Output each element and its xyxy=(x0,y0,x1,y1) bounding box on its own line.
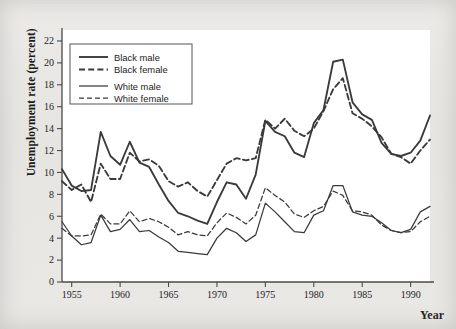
x-tick-label: 1955 xyxy=(62,289,82,300)
legend-label-white-male[interactable]: White male xyxy=(114,81,161,92)
y-tick-label: 22 xyxy=(44,35,54,46)
x-tick-label: 1980 xyxy=(304,289,324,300)
legend-label-white-female[interactable]: White female xyxy=(114,93,169,104)
y-tick-label: 8 xyxy=(49,189,54,200)
y-tick-label: 18 xyxy=(44,79,54,90)
legend-label-black-male[interactable]: Black male xyxy=(114,52,160,63)
y-tick-label: 12 xyxy=(44,145,54,156)
figure-container: Unemployment rate (percent) Year 0246810… xyxy=(0,0,456,329)
y-tick-label: 4 xyxy=(49,233,54,244)
legend-label-black-female[interactable]: Black female xyxy=(114,64,168,75)
y-tick-label: 0 xyxy=(49,276,54,287)
chart-legend[interactable]: Black maleBlack femaleWhite maleWhite fe… xyxy=(70,44,192,104)
y-tick-label: 10 xyxy=(44,167,54,178)
unemployment-line-chart: 0246810121416182022195519601965197019751… xyxy=(0,0,456,329)
x-tick-label: 1970 xyxy=(207,289,227,300)
y-tick-label: 2 xyxy=(49,254,54,265)
x-tick-label: 1975 xyxy=(255,289,275,300)
y-tick-label: 6 xyxy=(49,211,54,222)
y-tick-label: 20 xyxy=(44,57,54,68)
x-tick-label: 1965 xyxy=(159,289,179,300)
y-tick-label: 14 xyxy=(44,123,54,134)
x-tick-label: 1990 xyxy=(401,289,421,300)
x-tick-label: 1985 xyxy=(352,289,372,300)
y-tick-label: 16 xyxy=(44,101,54,112)
x-tick-label: 1960 xyxy=(110,289,130,300)
